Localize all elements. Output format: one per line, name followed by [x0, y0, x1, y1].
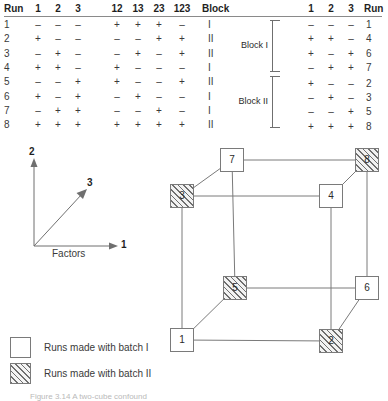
- header-rule: [4, 16, 382, 17]
- blocked-cell-run: 5: [366, 105, 372, 119]
- blocked-cell-factor-1: +: [308, 77, 314, 91]
- blocked-cell-factor-3: +: [348, 105, 354, 119]
- blocked-cell-factor-1: +: [308, 120, 314, 134]
- legend-item-batch-ii: Runs made with batch II: [10, 360, 240, 386]
- blocked-cell-run: 7: [366, 61, 372, 75]
- design-table-header-row: Run 1 2 3 12 13 23 123 Block 1 2 3 Run: [0, 2, 388, 16]
- blocked-cell-factor-2: +: [328, 120, 334, 134]
- legend-swatch-hatched-icon: [10, 363, 31, 384]
- blocked-table-row: –+–3: [0, 91, 388, 105]
- block-ii-label: Block II: [208, 96, 268, 106]
- blocked-cell-run: 6: [366, 47, 372, 61]
- col-header-f2: 2: [55, 2, 61, 16]
- legend-swatch-open-icon: [10, 337, 31, 358]
- blocked-col-header-f2: 2: [328, 2, 334, 16]
- block-i-bracket: [272, 20, 280, 72]
- blocked-table-row: ––+5: [0, 105, 388, 119]
- blocked-cell-factor-1: +: [308, 32, 314, 46]
- axis-1-label: 1: [121, 239, 127, 250]
- blocked-cell-factor-3: –: [348, 91, 354, 105]
- blocked-cell-factor-2: +: [328, 32, 334, 46]
- blocked-cell-factor-2: –: [328, 47, 334, 61]
- blocked-cell-factor-3: –: [348, 32, 354, 46]
- blocked-cell-factor-1: –: [308, 61, 314, 75]
- legend: Runs made with batch I Runs made with ba…: [10, 334, 240, 386]
- col-header-run: Run: [4, 2, 23, 16]
- blocked-cell-factor-2: –: [328, 105, 334, 119]
- blocked-cell-run: 3: [366, 91, 372, 105]
- blocked-cell-factor-1: –: [308, 105, 314, 119]
- factor-axes-diagram: 2 1 3 Factors: [8, 148, 168, 263]
- block-i-label: Block I: [208, 40, 268, 50]
- col-header-f3: 3: [75, 2, 81, 16]
- blocked-table-row: +++8: [0, 120, 388, 134]
- blocked-table-row: –––1: [0, 18, 388, 32]
- col-header-i123: 123: [174, 2, 191, 16]
- blocked-cell-run: 8: [366, 120, 372, 134]
- blocked-cell-run: 4: [366, 32, 372, 46]
- blocked-cell-factor-2: +: [328, 61, 334, 75]
- blocked-table-row: +––2: [0, 77, 388, 91]
- cube-node-3: 3: [170, 184, 194, 208]
- blocked-cell-factor-2: +: [328, 91, 334, 105]
- blocked-table-row: ++–4: [0, 32, 388, 46]
- cube-node-2: 2: [319, 329, 343, 353]
- blocked-col-header-f3: 3: [348, 2, 354, 16]
- blocked-col-header-run: Run: [364, 2, 383, 16]
- col-header-i12: 12: [111, 2, 122, 16]
- cube-node-6: 6: [355, 276, 379, 300]
- col-header-i23: 23: [153, 2, 164, 16]
- col-header-i13: 13: [132, 2, 143, 16]
- blocked-cell-run: 2: [366, 77, 372, 91]
- col-header-f1: 1: [35, 2, 41, 16]
- cube-node-8: 8: [355, 148, 379, 172]
- blocked-cell-run: 1: [366, 18, 372, 32]
- blocked-cell-factor-1: –: [308, 18, 314, 32]
- blocked-col-header-f1: 1: [308, 2, 314, 16]
- blocked-cell-factor-3: +: [348, 61, 354, 75]
- blocked-cell-factor-3: +: [348, 120, 354, 134]
- blocked-cell-factor-1: –: [308, 91, 314, 105]
- blocked-cell-factor-3: –: [348, 18, 354, 32]
- design-tables-area: Run 1 2 3 12 13 23 123 Block 1 2 3 Run 1…: [0, 0, 388, 136]
- cube-node-7: 7: [220, 148, 244, 172]
- axes-caption: Factors: [52, 248, 85, 259]
- cube-node-5: 5: [223, 276, 247, 300]
- blocked-cell-factor-3: –: [348, 77, 354, 91]
- axis-2-label: 2: [29, 146, 35, 157]
- legend-label-batch-ii: Runs made with batch II: [44, 368, 151, 379]
- blocked-cell-factor-2: –: [328, 18, 334, 32]
- axis-3-label: 3: [87, 177, 93, 188]
- figure-caption: Figure 3.14 A two-cube confound: [30, 392, 147, 401]
- col-header-block: Block: [202, 2, 229, 16]
- blocked-cell-factor-3: +: [348, 47, 354, 61]
- axes-svg: [8, 148, 168, 263]
- blocked-table-row: –++7: [0, 61, 388, 75]
- legend-item-batch-i: Runs made with batch I: [10, 334, 240, 360]
- block-ii-bracket: [272, 76, 280, 128]
- legend-label-batch-i: Runs made with batch I: [44, 342, 149, 353]
- blocked-cell-factor-2: –: [328, 77, 334, 91]
- cube-node-4: 4: [319, 184, 343, 208]
- blocked-table-row: +–+6: [0, 47, 388, 61]
- blocked-cell-factor-1: +: [308, 47, 314, 61]
